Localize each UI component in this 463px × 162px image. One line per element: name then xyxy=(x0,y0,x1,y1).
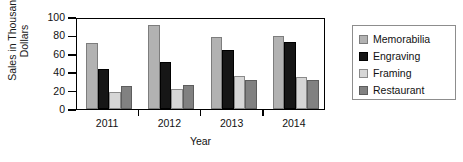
x-tick xyxy=(200,110,202,116)
y-tick xyxy=(68,109,76,111)
bar-restaurant-2013 xyxy=(245,80,257,109)
bar-engraving-2011 xyxy=(98,69,110,109)
legend-item-memorabilia: Memorabilia xyxy=(359,31,455,47)
y-tick-label: 100 xyxy=(35,12,65,22)
bar-engraving-2012 xyxy=(160,62,172,109)
y-tick-label: 20 xyxy=(35,86,65,96)
legend-item-restaurant: Restaurant xyxy=(359,82,455,98)
bar-framing-2014 xyxy=(296,77,308,109)
legend-item-framing: Framing xyxy=(359,65,455,81)
bars-container xyxy=(77,19,324,109)
y-tick xyxy=(68,72,76,74)
bar-framing-2011 xyxy=(109,92,121,109)
legend-swatch-icon xyxy=(359,69,368,78)
y-tick-label: 80 xyxy=(35,30,65,40)
y-tick-label: 0 xyxy=(35,104,65,114)
x-tick xyxy=(138,110,140,116)
bar-memorabilia-2011 xyxy=(86,43,98,109)
legend: MemorabiliaEngravingFramingRestaurant xyxy=(352,25,456,100)
legend-label: Restaurant xyxy=(373,84,424,96)
bar-restaurant-2014 xyxy=(307,80,319,109)
y-tick xyxy=(68,54,76,56)
legend-swatch-icon xyxy=(359,52,368,61)
x-tick-label-2014: 2014 xyxy=(264,117,324,129)
legend-label: Engraving xyxy=(373,50,420,62)
bar-framing-2012 xyxy=(171,89,183,109)
bar-framing-2013 xyxy=(234,76,246,109)
bar-engraving-2014 xyxy=(284,42,296,109)
legend-item-engraving: Engraving xyxy=(359,48,455,64)
bar-restaurant-2012 xyxy=(183,85,195,109)
legend-swatch-icon xyxy=(359,86,368,95)
x-tick-label-2011: 2011 xyxy=(77,117,137,129)
x-tick-label-2013: 2013 xyxy=(202,117,262,129)
bar-memorabilia-2012 xyxy=(148,25,160,109)
x-axis-title: Year xyxy=(76,135,325,147)
y-tick xyxy=(68,17,76,19)
legend-swatch-icon xyxy=(359,35,368,44)
legend-label: Framing xyxy=(373,67,412,79)
bar-restaurant-2011 xyxy=(121,86,133,109)
bar-memorabilia-2013 xyxy=(211,37,223,109)
bar-memorabilia-2014 xyxy=(273,36,285,109)
bar-engraving-2013 xyxy=(222,50,234,109)
x-tick-label-2012: 2012 xyxy=(139,117,199,129)
plot-area xyxy=(76,18,325,110)
bar-chart: Sales in Thousands of Dollars 0204060801… xyxy=(0,0,463,162)
y-tick-label: 60 xyxy=(35,49,65,59)
x-tick xyxy=(262,110,264,116)
y-tick xyxy=(68,36,76,38)
y-tick xyxy=(68,91,76,93)
y-tick-label: 40 xyxy=(35,67,65,77)
legend-label: Memorabilia xyxy=(373,33,430,45)
